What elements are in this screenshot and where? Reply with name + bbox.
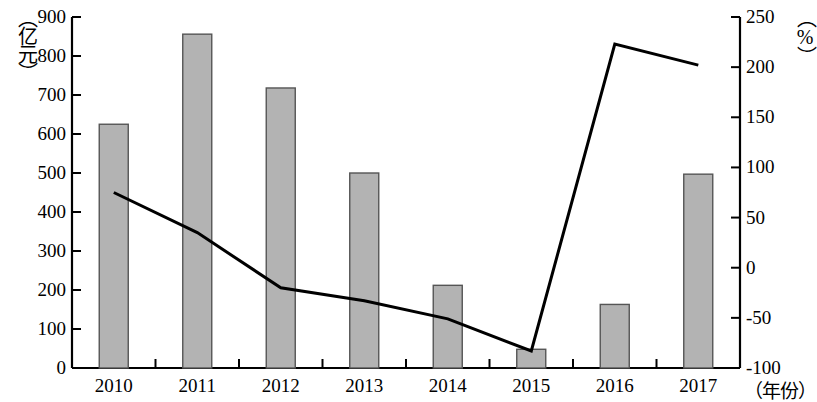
x-tick-label-2012: 2012 (246, 376, 316, 395)
bar-2016 (600, 304, 629, 368)
bar-2017 (684, 174, 713, 368)
right-tick-label-100: 100 (746, 157, 798, 176)
plot-canvas (0, 0, 817, 402)
bar-2014 (433, 285, 462, 368)
left-tick-label-600: 600 (20, 124, 66, 143)
left-tick-label-200: 200 (20, 280, 66, 299)
right-tick-label-200: 200 (746, 57, 798, 76)
right-axis (731, 17, 740, 368)
x-axis (72, 359, 740, 368)
right-tick-label-250: 250 (746, 7, 798, 26)
bar-2011 (183, 34, 212, 368)
right-tick-label-50: 50 (746, 208, 798, 227)
left-tick-label-900: 900 (20, 7, 66, 26)
right-tick-label-150: 150 (746, 107, 798, 126)
right-tick-label--100: -100 (746, 358, 798, 377)
left-tick-label-800: 800 (20, 46, 66, 65)
x-tick-label-2017: 2017 (663, 376, 733, 395)
x-tick-label-2011: 2011 (162, 376, 232, 395)
left-tick-label-400: 400 (20, 202, 66, 221)
x-tick-label-2013: 2013 (329, 376, 399, 395)
left-tick-label-500: 500 (20, 163, 66, 182)
left-axis (72, 17, 81, 368)
x-tick-label-2010: 2010 (79, 376, 149, 395)
chart-figure: （亿元） （%） （年份） 01002003004005006007008009… (0, 0, 817, 402)
x-tick-label-2016: 2016 (580, 376, 650, 395)
x-tick-label-2015: 2015 (496, 376, 566, 395)
x-tick-label-2014: 2014 (413, 376, 483, 395)
left-tick-label-700: 700 (20, 85, 66, 104)
bar-2010 (99, 124, 128, 368)
left-tick-label-100: 100 (20, 319, 66, 338)
left-tick-label-300: 300 (20, 241, 66, 260)
bar-2013 (350, 173, 379, 368)
right-tick-label--50: -50 (746, 308, 798, 327)
right-tick-label-0: 0 (746, 258, 798, 277)
bar-series (99, 34, 713, 368)
left-tick-label-0: 0 (20, 358, 66, 377)
bar-2012 (266, 88, 295, 368)
